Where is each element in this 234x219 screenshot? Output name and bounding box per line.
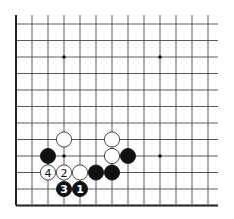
white-stone-icon — [72, 165, 87, 180]
stones: 4231 — [40, 132, 135, 197]
star-point-icon — [62, 55, 66, 59]
white-stone — [104, 132, 119, 147]
move-number-label: 3 — [60, 183, 68, 196]
move-number-label: 4 — [45, 167, 52, 180]
black-stone-icon — [104, 165, 119, 180]
star-point-icon — [62, 154, 66, 158]
white-stone-icon — [56, 132, 71, 147]
black-stone-move-1: 1 — [72, 181, 87, 196]
black-stone — [88, 165, 103, 180]
white-stone — [104, 148, 119, 163]
white-stone-icon — [104, 148, 119, 163]
white-stone-icon — [104, 132, 119, 147]
star-point-icon — [158, 55, 162, 59]
black-stone — [104, 165, 119, 180]
go-board: 4231 — [0, 0, 234, 219]
black-stone-icon — [40, 148, 55, 163]
black-stone-icon — [88, 165, 103, 180]
star-point-icon — [158, 154, 162, 158]
black-stone — [40, 148, 55, 163]
black-stone-icon — [120, 148, 135, 163]
move-number-label: 2 — [61, 167, 68, 180]
black-stone — [120, 148, 135, 163]
white-stone-move-2: 2 — [56, 165, 71, 180]
move-number-label: 1 — [76, 183, 84, 196]
black-stone-move-3: 3 — [56, 181, 71, 196]
white-stone-move-4: 4 — [40, 165, 55, 180]
white-stone — [72, 165, 87, 180]
white-stone — [56, 132, 71, 147]
